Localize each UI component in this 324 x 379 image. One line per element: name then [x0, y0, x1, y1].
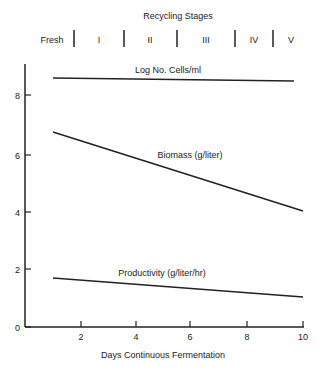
svg-text:6: 6	[187, 332, 192, 342]
stage-ii: II	[147, 35, 152, 45]
stage-i: I	[98, 35, 101, 45]
svg-text:Productivity (g/liter/hr): Productivity (g/liter/hr)	[118, 268, 206, 278]
y-ticks: 0 2 4 6 8	[15, 91, 31, 333]
x-axis-label: Days Continuous Fermentation	[101, 350, 225, 360]
svg-text:4: 4	[133, 332, 138, 342]
stage-fresh: Fresh	[40, 35, 63, 45]
chart: Recycling Stages Fresh I II III IV V 0 2…	[0, 0, 324, 379]
recycling-stages: Fresh I II III IV V	[40, 30, 294, 47]
stage-iv: IV	[250, 35, 259, 45]
svg-text:4: 4	[15, 208, 20, 218]
svg-text:2: 2	[15, 265, 20, 275]
series-productivity: Productivity (g/liter/hr)	[53, 268, 303, 297]
svg-text:10: 10	[298, 332, 308, 342]
svg-text:8: 8	[15, 91, 20, 101]
series-biomass: Biomass (g/liter)	[53, 132, 303, 211]
svg-text:2: 2	[78, 332, 83, 342]
svg-text:6: 6	[15, 151, 20, 161]
svg-text:8: 8	[244, 332, 249, 342]
x-ticks: 2 4 6 8 10	[78, 321, 308, 342]
svg-text:0: 0	[15, 323, 20, 333]
series-log-cells: Log No. Cells/ml	[53, 65, 294, 81]
svg-text:Log No. Cells/ml: Log No. Cells/ml	[135, 65, 201, 75]
svg-text:Biomass (g/liter): Biomass (g/liter)	[157, 150, 222, 160]
stage-v: V	[288, 35, 294, 45]
stage-iii: III	[202, 35, 210, 45]
chart-title: Recycling Stages	[143, 11, 213, 21]
